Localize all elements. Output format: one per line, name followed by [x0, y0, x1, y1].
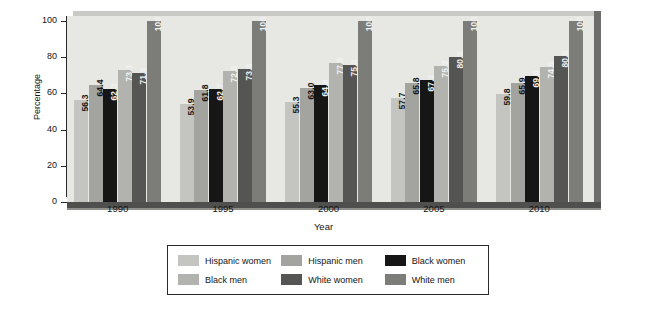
bar: 100 [147, 21, 161, 202]
legend: Hispanic womenHispanic menBlack womenBla… [167, 245, 489, 295]
bar: 69.6 [525, 76, 539, 202]
legend-swatch [385, 255, 406, 266]
bar: 75.2 [434, 66, 448, 202]
bar: 67.2 [420, 80, 434, 202]
x-axis-tick-label: 2005 [404, 203, 464, 214]
legend-item[interactable]: Hispanic men [277, 255, 380, 266]
bar: 73.1 [118, 70, 132, 202]
legend-swatch [178, 274, 199, 285]
legend-label: Hispanic men [308, 256, 363, 266]
legend-item[interactable]: White men [381, 274, 484, 285]
bar: 55.3 [285, 102, 299, 202]
bar: 80.5 [554, 56, 568, 202]
legend-item[interactable]: Black men [174, 274, 277, 285]
bar: 62.7 [209, 89, 223, 202]
bar: 80.2 [449, 57, 463, 202]
legend-swatch [281, 255, 302, 266]
bar: 75.8 [343, 65, 357, 202]
legend-label: White men [412, 275, 455, 285]
bar: 73.3 [238, 69, 252, 202]
bar: 100 [252, 21, 266, 202]
legend-items: Hispanic womenHispanic menBlack womenBla… [174, 251, 484, 289]
bar: 77.0 [329, 63, 343, 202]
bar: 100 [569, 21, 583, 202]
bar: 59.8 [496, 94, 510, 202]
bars-layer: 56.364.462.373.171.510053.961.862.772.67… [67, 11, 601, 207]
x-axis-tick-label: 2010 [509, 203, 569, 214]
bar-value-label: 100 [365, 17, 374, 31]
bar-value-label: 100 [154, 17, 163, 31]
bar: 65.8 [405, 83, 419, 202]
bar: 65.9 [511, 83, 525, 202]
bar: 57.7 [391, 98, 405, 202]
legend-label: Hispanic women [205, 256, 271, 266]
bar: 61.8 [194, 90, 208, 202]
x-axis-tick-label: 2000 [299, 203, 359, 214]
y-axis-tick-label: 100 [31, 16, 57, 25]
bar: 56.3 [74, 100, 88, 202]
bar: 62.3 [103, 89, 117, 202]
bar: 63.0 [300, 88, 314, 202]
legend-label: Black men [205, 275, 247, 285]
x-axis-title: Year [0, 221, 647, 232]
bar-value-label: 100 [470, 17, 479, 31]
legend-swatch [281, 274, 302, 285]
legend-label: Black women [412, 256, 466, 266]
bar: 64.4 [89, 85, 103, 202]
legend-swatch [385, 274, 406, 285]
legend-item[interactable]: Hispanic women [174, 255, 277, 266]
legend-item[interactable]: White women [277, 274, 380, 285]
legend-label: White women [308, 275, 363, 285]
x-axis-tick-label: 1995 [193, 203, 253, 214]
bar: 74.5 [540, 67, 554, 202]
bar-value-label: 100 [259, 17, 268, 31]
y-axis-tick-label: 20 [31, 161, 57, 170]
y-axis-tick-label: 0 [31, 197, 57, 206]
bar-value-label: 100 [576, 17, 585, 31]
legend-swatch [178, 255, 199, 266]
bar-chart: 020406080100 Percentage 56.364.462.373.1… [0, 0, 647, 313]
bar: 71.5 [132, 73, 146, 202]
bar: 72.6 [223, 71, 237, 202]
y-axis-title: Percentage [32, 52, 42, 142]
bar: 53.9 [180, 104, 194, 202]
x-axis-tick-label: 1990 [88, 203, 148, 214]
bar: 100 [358, 21, 372, 202]
legend-item[interactable]: Black women [381, 255, 484, 266]
bar: 64.8 [314, 85, 328, 202]
bar: 100 [463, 21, 477, 202]
